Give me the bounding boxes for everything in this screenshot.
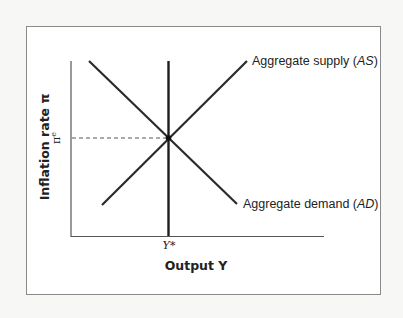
- aggregate-supply-curve: [102, 61, 247, 205]
- as-curve-label: Aggregate supply (AS): [252, 54, 378, 68]
- equilibrium-point: [166, 135, 172, 141]
- expected-inflation-tick: πe: [49, 132, 64, 144]
- aggregate-demand-curve: [89, 61, 237, 204]
- ad-curve-label: Aggregate demand (AD): [243, 197, 379, 211]
- y-axis-title: Inflation rate π: [37, 94, 52, 201]
- x-axis-title: Output Y: [165, 258, 228, 273]
- potential-output-tick: Y*: [163, 239, 176, 252]
